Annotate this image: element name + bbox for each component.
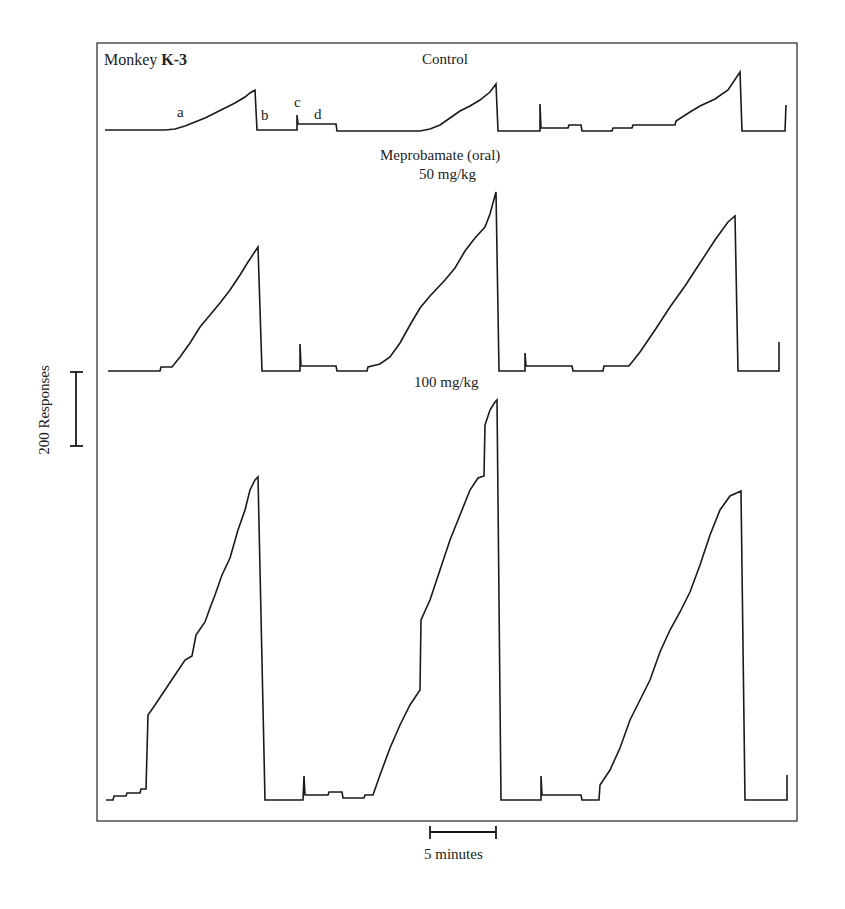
dose-100-label: 100 mg/kg (414, 375, 479, 390)
subject-label: Monkey K-3 (104, 52, 187, 68)
response-scale-bar (70, 372, 83, 446)
subject-id: K-3 (161, 51, 187, 68)
plot-area (0, 0, 845, 909)
response-scale-label: 200 Responses (36, 365, 53, 455)
control-panel-label: Control (422, 52, 468, 67)
segment-label-d: d (314, 107, 322, 122)
drug-label: Meprobamate (oral) (380, 148, 500, 163)
segment-label-c: c (294, 95, 301, 110)
segment-label-a: a (177, 105, 184, 120)
time-scale-bar (430, 826, 496, 839)
dose-50-label: 50 mg/kg (419, 167, 476, 182)
segment-label-b: b (261, 108, 269, 123)
control-record-trace (105, 72, 786, 131)
cumulative-record-figure: Monkey K-3 Control a b c d Meprobamate (… (0, 0, 845, 909)
time-scale-label: 5 minutes (424, 847, 483, 862)
subject-prefix: Monkey (104, 51, 161, 68)
meprobamate-100mg-record-trace (106, 400, 787, 800)
meprobamate-50mg-record-trace (108, 192, 779, 371)
